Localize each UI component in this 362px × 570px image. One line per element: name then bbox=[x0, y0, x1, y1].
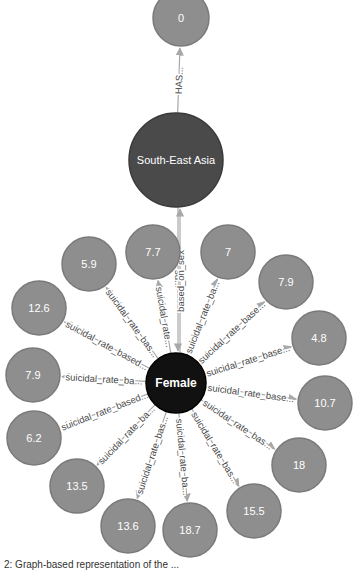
edge-label: suicidal_rate_base...suicidal_rate_base.… bbox=[207, 382, 295, 404]
node-v18[interactable]: 18 bbox=[272, 438, 326, 492]
node-label: 5.9 bbox=[81, 258, 96, 270]
node-v48[interactable]: 4.8 bbox=[292, 311, 346, 365]
node-label: 13.6 bbox=[117, 520, 138, 532]
node-v135[interactable]: 13.5 bbox=[50, 459, 104, 513]
node-label: 7.7 bbox=[145, 246, 160, 258]
node-sea[interactable]: South-East Asia bbox=[129, 113, 223, 207]
node-label: 7.9 bbox=[278, 276, 293, 288]
node-label: 6.2 bbox=[26, 432, 41, 444]
node-label: 18.7 bbox=[179, 524, 200, 536]
node-label: 18 bbox=[293, 459, 305, 471]
node-v155[interactable]: 15.5 bbox=[227, 484, 281, 538]
edge-label: HAS...HAS... bbox=[173, 67, 185, 95]
node-label: 10.7 bbox=[314, 397, 335, 409]
node-label: 7 bbox=[225, 246, 231, 258]
node-v187[interactable]: 18.7 bbox=[163, 503, 217, 557]
node-v77[interactable]: 7.7 bbox=[126, 225, 180, 279]
edge-label: suicidal_rate...suicidal_rate... bbox=[154, 286, 175, 348]
node-n0[interactable]: 0 bbox=[153, 0, 209, 46]
edge-label-text: suicidal_rate_base... bbox=[207, 382, 295, 404]
node-label: 4.8 bbox=[311, 332, 326, 344]
figure-caption: 2: Graph-based representation of the ... bbox=[4, 559, 179, 570]
node-v7[interactable]: 7 bbox=[201, 225, 255, 279]
node-label: Female bbox=[155, 376, 197, 390]
edge-label-text: suicidal_rate... bbox=[154, 286, 175, 348]
node-v107[interactable]: 10.7 bbox=[298, 376, 352, 430]
edge-label-text: suicidal_rate_ba... bbox=[174, 418, 192, 496]
edge-label: suicidal_rate_ba...suicidal_rate_ba... bbox=[174, 418, 192, 496]
node-label: 0 bbox=[178, 12, 184, 24]
node-label: 15.5 bbox=[243, 505, 264, 517]
node-v59[interactable]: 5.9 bbox=[62, 237, 116, 291]
node-female[interactable]: Female bbox=[146, 353, 206, 413]
node-v126[interactable]: 12.6 bbox=[12, 281, 66, 335]
node-label: 12.6 bbox=[28, 302, 49, 314]
edge-label-text: HAS... bbox=[173, 67, 185, 95]
edge-label-text: suicidal_rate_ba... bbox=[65, 371, 143, 386]
node-label: South-East Asia bbox=[137, 154, 216, 166]
node-v79a[interactable]: 7.9 bbox=[259, 255, 313, 309]
node-v79b[interactable]: 7.9 bbox=[6, 348, 60, 402]
node-label: 13.5 bbox=[66, 480, 87, 492]
node-label: 7.9 bbox=[25, 369, 40, 381]
node-v136[interactable]: 13.6 bbox=[101, 499, 155, 553]
edge-label: suicidal_rate_ba...suicidal_rate_ba... bbox=[65, 371, 143, 386]
node-v62[interactable]: 6.2 bbox=[7, 411, 61, 465]
